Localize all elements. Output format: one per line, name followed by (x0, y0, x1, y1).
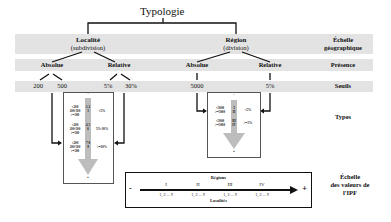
region-group-1-num-2: II (231, 111, 237, 115)
threshold-500: 500 (54, 83, 70, 90)
region-group-1-abs-2: >=5000 (211, 111, 229, 115)
locality-bottom-sign: + (85, 176, 91, 180)
scale-region-2-numeral: II (192, 182, 204, 187)
threshold-200: 200 (30, 83, 46, 90)
row-label-thresholds: Seuils (318, 83, 368, 90)
region-types-box: - <5000 >=5000 I II <5% <5000 >=5000 III… (207, 92, 261, 158)
row-label-ipf-2: des valeurs de (320, 182, 380, 189)
threshold-5pct-locality: 5% (100, 83, 116, 90)
region-group-2-abs-2: >=5000 (211, 124, 229, 128)
threshold-30pct: 30% (122, 83, 140, 90)
locality-group-3-numbers: 7 8 9 (85, 142, 91, 149)
scale-region-4-numeral: IV (256, 182, 268, 187)
region-absolute: Absolue (181, 62, 213, 69)
locality-group-2-numbers: 4 5 6 (85, 124, 91, 131)
threshold-5000: 5000 (186, 83, 208, 90)
region-name: Région (220, 37, 252, 44)
threshold-5pct-region: 5% (262, 83, 278, 90)
region-sub: (division) (216, 45, 256, 52)
locality-group-1-numbers: 1 2 3 (85, 106, 91, 113)
locality-absolute: Absolue (36, 62, 68, 69)
locality-types-box: - <200 200-500 >=500 <5% <200 200-500 >=… (63, 92, 114, 184)
locality-group-3-rel: >=30% (93, 146, 111, 150)
scale-region-3-localities: 1, 2 ... 9 (216, 193, 244, 197)
locality-group-3-abs-3: >=500 (66, 150, 84, 154)
region-relative: Relative (254, 62, 286, 69)
row-label-ipf-1: Échelle (320, 174, 380, 181)
locality-group-2-rel: 5%-30% (92, 128, 112, 132)
row-label-ipf-3: l'IPF (320, 190, 380, 197)
row-label-types: Types (318, 114, 368, 121)
scale-region-1-localities: 1, 2 ... 9 (152, 193, 180, 197)
scale-bottom-label: Localités (126, 199, 311, 204)
locality-group-1-abs-3: >=500 (66, 114, 84, 118)
row-label-geographic-scale-2: géographique (318, 45, 368, 52)
scale-region-4-localities: 1, 2 ... 9 (248, 193, 276, 197)
locality-group-1-rel: <5% (93, 110, 111, 114)
locality-group-2-abs-3: >=500 (66, 132, 84, 136)
row-label-presence: Présence (318, 62, 368, 69)
region-top-sign: - (231, 94, 237, 98)
scale-region-3-numeral: III (224, 182, 236, 187)
region-group-2-num-2: IV (231, 124, 237, 128)
locality-name: Localité (70, 37, 106, 44)
diagram-title: Typologie (140, 6, 184, 17)
scale-region-2-localities: 1, 2 ... 9 (184, 193, 212, 197)
locality-sub: (subdivision) (66, 45, 110, 52)
region-group-1-rel: <5% (240, 109, 256, 113)
locality-top-sign: - (85, 93, 91, 97)
locality-relative: Relative (103, 62, 135, 69)
region-bottom-sign: + (231, 150, 237, 154)
row-label-geographic-scale-1: Échelle (318, 37, 368, 44)
scale-region-1-numeral: I (160, 182, 172, 187)
region-group-2-rel: >=5% (240, 122, 256, 126)
scale-plus: + (302, 184, 307, 193)
ipf-scale-box: Régions - + I 1, 2 ... 9 II 1, 2 ... 9 I… (125, 172, 312, 208)
